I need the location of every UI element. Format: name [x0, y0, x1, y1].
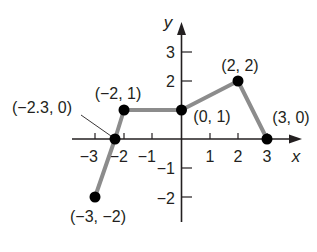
x-axis-label: x	[291, 147, 301, 166]
x-tick-label: −1	[138, 148, 156, 165]
x-axis-arrow-icon	[289, 135, 302, 144]
point-label: (0, 1)	[193, 108, 230, 125]
data-point	[262, 134, 273, 145]
y-axis-arrow-icon	[177, 22, 186, 35]
x-tick-label: 2	[234, 148, 243, 165]
leader-line	[81, 115, 111, 136]
x-tick-label: −3	[80, 148, 98, 165]
point-label: (−3, −2)	[70, 208, 126, 225]
y-tick-label: −2	[157, 190, 175, 207]
y-axis: 3 2 −1 −2 y	[157, 13, 192, 222]
data-point	[90, 192, 101, 203]
point-label: (−2, 1)	[95, 85, 142, 102]
piecewise-graph: −3 −2 −1 1 2 3 x 3 2 −1 −2 y (−3, −2) (−…	[0, 0, 317, 252]
point-label: (3, 0)	[272, 109, 309, 126]
y-axis-label: y	[163, 13, 174, 32]
data-point	[233, 76, 244, 87]
point-label: (−2.3, 0)	[12, 99, 72, 116]
y-tick-label: 2	[166, 73, 175, 90]
y-tick-label: 3	[166, 44, 175, 61]
x-tick-label: 1	[206, 148, 215, 165]
data-point	[176, 105, 187, 116]
x-tick-label: 3	[263, 148, 272, 165]
y-tick-label: −1	[157, 160, 175, 177]
data-point	[110, 134, 121, 145]
data-point	[119, 105, 130, 116]
point-label: (2, 2)	[221, 57, 258, 74]
